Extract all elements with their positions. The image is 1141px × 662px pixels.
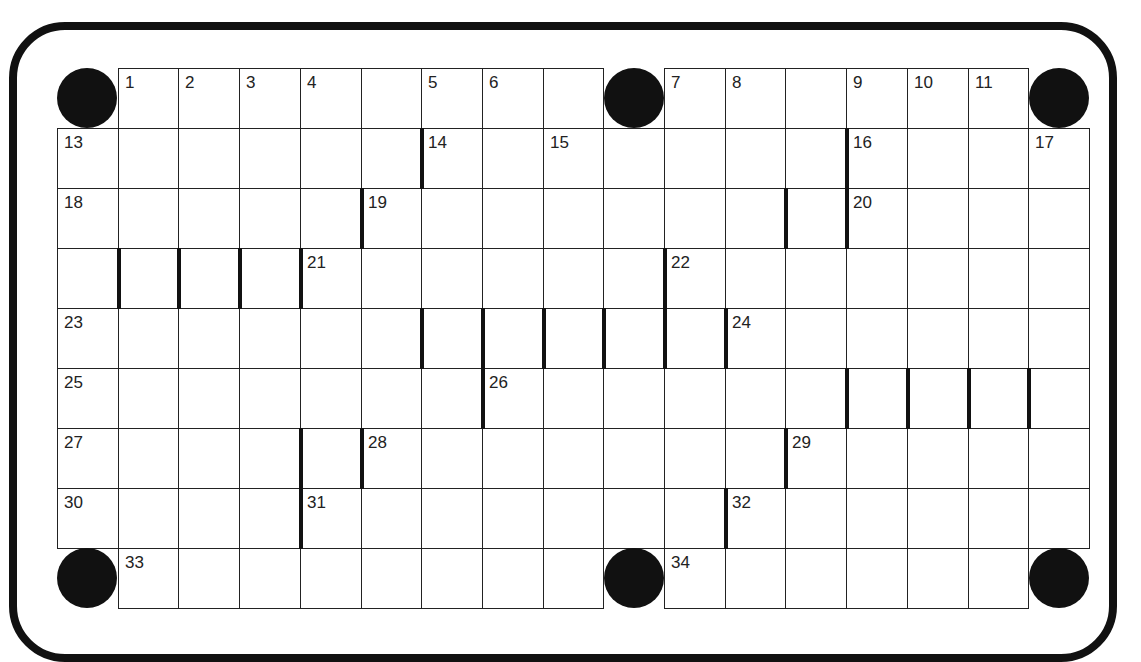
grid-cell[interactable]	[239, 128, 301, 189]
grid-cell[interactable]	[968, 128, 1029, 189]
grid-cell[interactable]	[300, 188, 362, 249]
grid-cell[interactable]	[361, 488, 422, 549]
grid-cell[interactable]: 18	[57, 188, 119, 249]
grid-cell[interactable]	[968, 488, 1029, 549]
grid-cell[interactable]: 34	[664, 548, 726, 609]
grid-cell[interactable]	[846, 488, 908, 549]
grid-cell[interactable]	[785, 128, 847, 189]
grid-cell[interactable]	[968, 308, 1029, 369]
grid-cell[interactable]: 27	[57, 428, 119, 489]
grid-cell[interactable]: 14	[421, 128, 483, 189]
grid-cell[interactable]	[178, 248, 240, 309]
grid-cell[interactable]: 29	[785, 428, 847, 489]
grid-cell[interactable]	[361, 128, 422, 189]
grid-cell[interactable]	[239, 308, 301, 369]
grid-cell[interactable]	[543, 548, 604, 609]
grid-cell[interactable]	[907, 248, 969, 309]
grid-cell[interactable]	[178, 428, 240, 489]
grid-cell[interactable]	[846, 548, 908, 609]
grid-cell[interactable]	[178, 308, 240, 369]
grid-cell[interactable]	[543, 308, 604, 369]
grid-cell[interactable]	[725, 188, 786, 249]
grid-cell[interactable]	[482, 248, 544, 309]
grid-cell[interactable]: 15	[543, 128, 604, 189]
grid-cell[interactable]: 10	[907, 68, 969, 129]
grid-cell[interactable]	[178, 128, 240, 189]
grid-cell[interactable]: 9	[846, 68, 908, 129]
grid-cell[interactable]: 31	[300, 488, 362, 549]
grid-cell[interactable]	[907, 308, 969, 369]
grid-cell[interactable]	[543, 188, 604, 249]
grid-cell[interactable]	[118, 428, 179, 489]
grid-cell[interactable]	[603, 188, 665, 249]
grid-cell[interactable]	[907, 428, 969, 489]
grid-cell[interactable]	[178, 188, 240, 249]
grid-cell[interactable]	[1028, 308, 1090, 369]
grid-cell[interactable]	[421, 428, 483, 489]
grid-cell[interactable]	[1028, 188, 1090, 249]
grid-cell[interactable]	[907, 128, 969, 189]
grid-cell[interactable]: 21	[300, 248, 362, 309]
grid-cell[interactable]: 17	[1028, 128, 1090, 189]
grid-cell[interactable]	[239, 368, 301, 429]
grid-cell[interactable]	[482, 128, 544, 189]
grid-cell[interactable]	[239, 548, 301, 609]
grid-cell[interactable]	[421, 368, 483, 429]
grid-cell[interactable]: 20	[846, 188, 908, 249]
grid-cell[interactable]	[543, 248, 604, 309]
grid-cell[interactable]	[1028, 488, 1090, 549]
grid-cell[interactable]	[543, 428, 604, 489]
grid-cell[interactable]: 25	[57, 368, 119, 429]
grid-cell[interactable]	[907, 548, 969, 609]
grid-cell[interactable]	[603, 368, 665, 429]
grid-cell[interactable]	[846, 308, 908, 369]
grid-cell[interactable]	[482, 548, 544, 609]
grid-cell[interactable]: 13	[57, 128, 119, 189]
grid-cell[interactable]	[178, 488, 240, 549]
grid-cell[interactable]	[421, 488, 483, 549]
grid-cell[interactable]	[239, 248, 301, 309]
grid-cell[interactable]: 11	[968, 68, 1029, 129]
grid-cell[interactable]	[118, 188, 179, 249]
grid-cell[interactable]	[725, 248, 786, 309]
grid-cell[interactable]: 16	[846, 128, 908, 189]
grid-cell[interactable]: 3	[239, 68, 301, 129]
grid-cell[interactable]	[178, 548, 240, 609]
grid-cell[interactable]	[300, 308, 362, 369]
grid-cell[interactable]	[664, 188, 726, 249]
grid-cell[interactable]	[300, 548, 362, 609]
grid-cell[interactable]	[968, 248, 1029, 309]
grid-cell[interactable]: 26	[482, 368, 544, 429]
grid-cell[interactable]	[785, 68, 847, 129]
grid-cell[interactable]	[603, 308, 665, 369]
grid-cell[interactable]	[664, 128, 726, 189]
grid-cell[interactable]	[482, 488, 544, 549]
grid-cell[interactable]	[361, 308, 422, 369]
grid-cell[interactable]: 4	[300, 68, 362, 129]
grid-cell[interactable]	[1028, 248, 1090, 309]
grid-cell[interactable]	[482, 308, 544, 369]
grid-cell[interactable]	[664, 428, 726, 489]
grid-cell[interactable]	[664, 488, 726, 549]
grid-cell[interactable]	[421, 548, 483, 609]
grid-cell[interactable]: 33	[118, 548, 179, 609]
grid-cell[interactable]	[785, 248, 847, 309]
grid-cell[interactable]	[968, 548, 1029, 609]
grid-cell[interactable]: 24	[725, 308, 786, 369]
grid-cell[interactable]	[361, 68, 422, 129]
grid-cell[interactable]	[300, 368, 362, 429]
grid-cell[interactable]	[785, 488, 847, 549]
grid-cell[interactable]	[118, 368, 179, 429]
grid-cell[interactable]: 6	[482, 68, 544, 129]
grid-cell[interactable]: 1	[118, 68, 179, 129]
grid-cell[interactable]	[421, 308, 483, 369]
grid-cell[interactable]	[421, 188, 483, 249]
grid-cell[interactable]	[118, 308, 179, 369]
grid-cell[interactable]	[725, 428, 786, 489]
grid-cell[interactable]	[968, 368, 1029, 429]
grid-cell[interactable]	[1028, 428, 1090, 489]
grid-cell[interactable]	[239, 188, 301, 249]
grid-cell[interactable]: 22	[664, 248, 726, 309]
grid-cell[interactable]: 19	[361, 188, 422, 249]
grid-cell[interactable]	[482, 428, 544, 489]
